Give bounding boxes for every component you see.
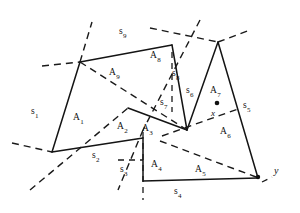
label-a5: A5: [195, 165, 205, 177]
dash-a6-cut: [160, 141, 256, 177]
label-s7: s7: [160, 98, 167, 110]
label-s3: s3: [120, 165, 127, 177]
label-s4: s4: [174, 187, 181, 199]
label-y: y: [274, 166, 278, 176]
label-a4: A4: [151, 160, 161, 172]
dash-left-low: [12, 143, 52, 152]
label-a6: A6: [220, 127, 230, 139]
dash-y-mark: [262, 177, 272, 182]
label-s8: s8: [172, 69, 179, 81]
edge-s8: [172, 45, 187, 130]
label-a2: A2: [117, 122, 127, 134]
label-a3: A3: [142, 124, 152, 136]
label-s6: s6: [186, 86, 193, 98]
dash-upper-vertical-through: [80, 22, 92, 62]
label-s9: s9: [119, 27, 126, 39]
label-s2: s2: [92, 151, 99, 163]
label-a9: A9: [109, 68, 119, 80]
edge-s2: [52, 138, 143, 152]
polygon-diagram-svg: [0, 0, 300, 213]
vertex-dot-group: [215, 101, 261, 180]
edge-s4: [143, 178, 258, 181]
figure-canvas: s1 s2 s3 s4 s5 s6 s7 s8 s9 A1 A2 A3 A4 A…: [0, 0, 300, 213]
edge-s1: [52, 62, 80, 152]
y-vertex-dot: [256, 175, 260, 179]
label-a8: A8: [150, 51, 160, 63]
label-s5: s5: [243, 101, 250, 113]
edge-s7-internal: [128, 108, 187, 130]
dash-top-cross-right: [218, 30, 250, 42]
label-x: x: [211, 109, 215, 118]
label-a1: A1: [73, 113, 83, 125]
a7-centroid-dot: [215, 101, 220, 106]
edge-s5: [218, 42, 258, 178]
dashed-construction-group: [12, 20, 272, 200]
dash-upper-left-through: [42, 62, 80, 66]
label-a7: A7: [210, 86, 220, 98]
dash-a9-diagonal: [80, 62, 187, 130]
dash-top-cross-left: [150, 28, 218, 42]
label-s1: s1: [31, 107, 38, 119]
